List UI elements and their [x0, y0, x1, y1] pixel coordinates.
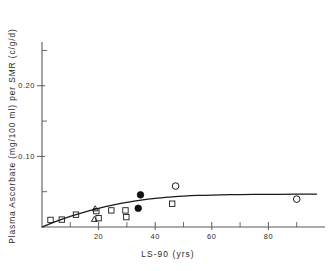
- chart-figure: 0.100.20 20406080 LS-90 (yrs) Plasma Asc…: [0, 0, 335, 271]
- series-open-circle-markers: [172, 183, 300, 203]
- series-open-square-markers: [48, 201, 175, 223]
- y-axis-minor-ticks: [42, 50, 47, 191]
- y-axis-tick-labels: 0.100.20: [18, 81, 35, 161]
- data-point-open-square: [169, 201, 174, 206]
- data-point-open-circle: [172, 183, 179, 190]
- data-point-filled-circle: [137, 192, 144, 199]
- tick-label: 60: [207, 232, 216, 241]
- data-point-filled-circle: [135, 205, 142, 212]
- data-point-open-square: [109, 208, 114, 213]
- data-point-open-square: [124, 214, 129, 219]
- x-axis-tick-labels: 20406080: [94, 232, 273, 241]
- tick-label: 40: [150, 232, 159, 241]
- data-point-open-circle: [293, 196, 300, 203]
- data-point-open-triangle: [91, 216, 97, 221]
- fitted-curve: [42, 194, 317, 227]
- data-point-open-square: [48, 217, 53, 222]
- x-axis-minor-ticks: [70, 222, 296, 227]
- tick-label: 20: [94, 232, 103, 241]
- y-axis-title: Plasma Ascorbate (mg/100 ml) per SMR (c/…: [7, 28, 17, 244]
- scatter-plot-svg: 0.100.20 20406080 LS-90 (yrs) Plasma Asc…: [0, 0, 335, 271]
- tick-label: 0.20: [18, 81, 35, 90]
- data-point-open-square: [123, 208, 128, 213]
- series-filled-circle-markers: [135, 192, 144, 212]
- tick-label: 80: [264, 232, 273, 241]
- tick-label: 0.10: [18, 152, 35, 161]
- x-axis-title: LS-90 (yrs): [141, 249, 195, 259]
- axes-group: [42, 42, 325, 227]
